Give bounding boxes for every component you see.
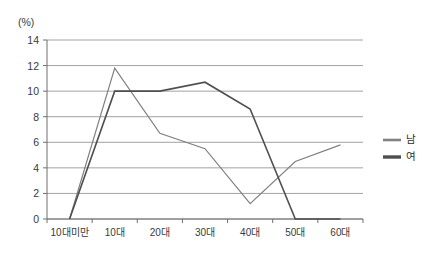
y-tick-label-10: 10 [27,85,39,97]
x-tick-label-6: 60대 [330,227,350,238]
y-tick-label-0: 0 [33,213,39,225]
gridlines [47,40,363,219]
x-tick-label-2: 20대 [150,227,170,238]
x-tick-label-0: 10대미만 [51,227,89,238]
y-tick-label-8: 8 [33,111,39,123]
legend-label-여: 여 [406,150,416,162]
chart-container: 02468101214 10대미만10대20대30대40대50대60대 (%) … [0,0,429,257]
legend-label-남: 남 [406,133,416,145]
y-axis-unit-label: (%) [18,16,34,28]
y-tick-label-2: 2 [33,187,39,199]
y-tick-label-14: 14 [27,34,39,46]
x-tick-label-5: 50대 [285,227,305,238]
y-tick-label-12: 12 [27,60,39,72]
series-line-여 [70,82,341,219]
x-tick-label-3: 30대 [195,227,215,238]
legend: 남여 [383,133,416,162]
y-tick-label-4: 4 [33,162,39,174]
y-tick-label-6: 6 [33,136,39,148]
x-tick-label-1: 10대 [105,227,125,238]
line-chart: 02468101214 10대미만10대20대30대40대50대60대 (%) … [0,0,429,257]
x-tick-label-4: 40대 [240,227,260,238]
y-tick-labels: 02468101214 [27,34,47,225]
x-tick-labels: 10대미만10대20대30대40대50대60대 [51,227,351,238]
